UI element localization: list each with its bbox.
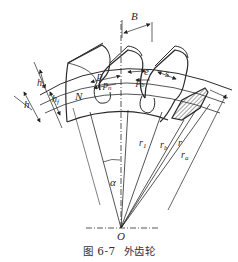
label-B: B bbox=[131, 10, 138, 22]
label-ra: ra bbox=[181, 149, 189, 162]
label-e: e bbox=[144, 65, 149, 77]
figure-number: 图 6-7 bbox=[83, 245, 116, 257]
label-r1: r1 bbox=[139, 137, 146, 150]
label-p: p bbox=[96, 69, 103, 81]
label-hf: hf bbox=[52, 93, 60, 106]
figure-title: 外齿轮 bbox=[124, 245, 156, 257]
label-s: s bbox=[165, 67, 169, 79]
label-rb: rb bbox=[160, 139, 168, 152]
label-alpha: α bbox=[110, 176, 116, 188]
dimension-B bbox=[122, 20, 152, 42]
hatched-section bbox=[172, 88, 208, 120]
label-h: h bbox=[24, 98, 30, 110]
label-pn: pn bbox=[102, 79, 112, 92]
alpha-arc bbox=[103, 159, 120, 162]
radius-lines bbox=[73, 20, 210, 228]
label-N: N bbox=[74, 90, 83, 102]
gear-diagram: B p pn e s pb ha hf h N r1 rb r ra α O bbox=[0, 0, 238, 262]
label-O: O bbox=[117, 230, 125, 242]
figure-caption: 图 6-7外齿轮 bbox=[0, 243, 238, 258]
label-ha: ha bbox=[37, 77, 46, 90]
label-r: r bbox=[178, 137, 182, 148]
